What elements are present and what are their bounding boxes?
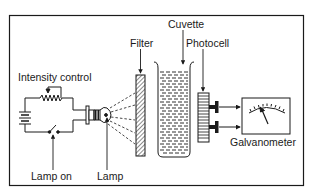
switch-icon [48, 125, 59, 133]
signal-wires [219, 107, 240, 127]
lamp-circuit [25, 98, 86, 132]
filter-label: Filter [130, 37, 154, 49]
meter-dial-icon [242, 98, 290, 134]
variable-resistor-icon [40, 87, 62, 101]
lamp-label: Lamp [97, 170, 123, 182]
galvanometer-label: Galvanometer [230, 136, 296, 148]
hatched-filter-icon [136, 75, 145, 156]
label-leaders [53, 30, 203, 170]
lamp-on-label: Lamp on [31, 170, 72, 182]
light-rays [108, 93, 135, 144]
photocell-label: Photocell [186, 37, 229, 49]
photometer-diagram: Intensity control Filter Cuvette Photoce… [0, 0, 311, 195]
photocell-icon [198, 93, 219, 142]
intensity-control-label: Intensity control [18, 71, 92, 83]
cuvette-label: Cuvette [168, 18, 204, 30]
battery-icon [19, 112, 31, 124]
cuvette-icon [154, 62, 194, 157]
